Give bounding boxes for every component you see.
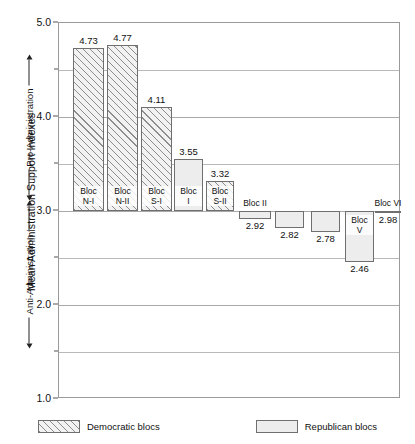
bar-value-label: 2.98 [365,214,411,225]
gridline-minor [59,352,399,353]
bar-value-label: 2.78 [301,233,350,244]
arrow-right-icon [26,55,32,60]
bar-bloc-n-ii[interactable]: BlocN-II [107,45,138,211]
pro-administration-annotation: Pro-Administration [24,55,35,201]
bar-bloc-n-i[interactable]: BlocN-I [73,48,104,211]
bar-name-label: Bloc II [231,198,279,208]
bar-name-line2: N-II [108,196,137,206]
bar-name-label: Bloc VI [367,198,409,208]
legend-item-republican: Republican blocs [256,420,377,433]
y-axis-tick-label: 3.0 [17,204,51,216]
annotation-rule [29,317,30,343]
bar-bloc-ii[interactable] [239,211,271,219]
y-axis-tick-label: 1.0 [17,392,51,404]
arrow-left-icon [26,196,32,201]
legend: Democratic blocs Republican blocs [0,414,415,438]
bar-name-line1: Bloc [74,186,103,196]
legend-swatch-democratic [38,420,80,433]
bar-name-label: BlocI [175,186,202,206]
plot-area: BlocN-I4.73BlocN-II4.77BlocS-I4.11BlocI3… [58,22,400,398]
annotation-rule [29,60,30,86]
pro-administration-label: Pro-Administration [24,86,35,170]
bar-name-line2: V [346,225,373,235]
bar-bloc-iii[interactable] [275,211,304,228]
legend-swatch-republican [256,420,298,433]
bar-value-label: 4.77 [97,32,148,43]
annotation-rule [29,170,30,196]
anti-administration-annotation: Anti-Administration [24,201,35,349]
bar-bloc-s-i[interactable]: BlocS-I [141,107,172,211]
bar-name-line1: Bloc [108,186,137,196]
bar-name-line2: S-I [142,196,171,206]
bar-name-line1: Bloc [175,186,202,196]
bar-name-line1: Bloc [142,186,171,196]
bar-value-label: 3.32 [196,168,244,179]
bar-chart: Mean Administration Support Indexes Anti… [0,0,415,444]
legend-label-democratic: Democratic blocs [87,421,160,432]
bar-value-label: 2.46 [335,263,384,274]
gridline-major [59,305,399,306]
y-axis-tick-label: 5.0 [17,16,51,28]
arrow-left-icon [26,343,32,348]
bar-name-label: BlocS-I [142,186,171,206]
bar-bloc-iv[interactable] [311,211,340,232]
bar-value-label: 3.55 [164,146,213,157]
y-axis-tick-label: 4.0 [17,110,51,122]
legend-item-democratic: Democratic blocs [38,420,160,433]
bar-name-line2: N-I [74,196,103,206]
bar-name-label: BlocN-II [108,186,137,206]
bar-name-label: BlocN-I [74,186,103,206]
legend-label-republican: Republican blocs [305,421,377,432]
bar-bloc-vi[interactable] [375,211,401,213]
bar-name-line2: S-II [207,196,233,206]
bar-bloc-s-ii[interactable]: BlocS-II [206,181,234,211]
y-axis-tick-label: 2.0 [17,298,51,310]
bar-name-line1: Bloc [207,186,233,196]
bar-name-line2: I [175,196,202,206]
bar-name-label: BlocS-II [207,186,233,206]
bar-value-label: 4.11 [131,94,182,105]
